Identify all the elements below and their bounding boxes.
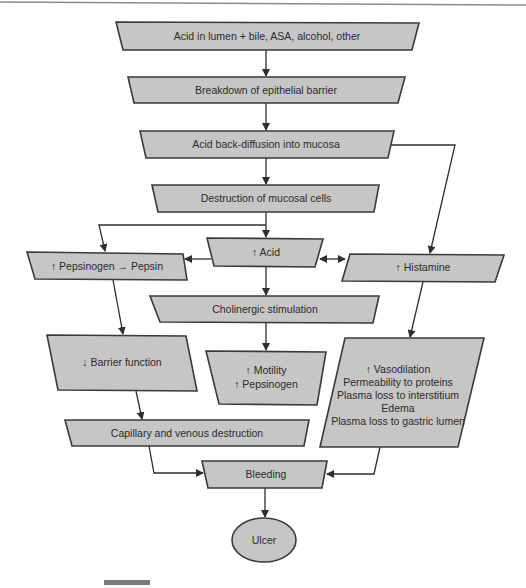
node-histamine: ↑ Histamine [342,254,504,282]
scale-bar-mark [104,580,150,585]
node-ulcer: Ulcer [232,518,296,562]
node-label-line-2: ↑ Pepsinogen [234,378,298,390]
node-barrier-function: ↓ Barrier function [47,335,197,391]
node-cholinergic-stimulation: Cholinergic stimulation [150,296,379,323]
edge-capillary-to-bleeding [149,446,203,473]
flowchart-canvas: Acid in lumen + bile, ASA, alcohol, othe… [0,0,526,588]
node-label: Ulcer [252,534,277,546]
node-label: ↑ Histamine [396,261,451,273]
node-label-line-1: ↑ Vasodilation [366,363,431,375]
node-label: Breakdown of epithelial barrier [195,84,337,96]
node-label-line-2: Permeability to proteins [343,376,453,388]
node-vasodilation: ↑ Vasodilation Permeability to proteins … [320,338,484,447]
edge-back-diffusion-to-histamine [391,145,455,253]
edge-vasodilation-to-bleeding [327,447,380,474]
edge-pepsinogen-to-barrier [113,280,123,334]
edge-histamine-to-vasodilation [410,282,423,337]
page-top-rule [0,2,526,5]
node-label: ↑ Acid [252,246,280,258]
node-acid-in-lumen: Acid in lumen + bile, ASA, alcohol, othe… [116,22,419,50]
node-destruction-mucosal-cells: Destruction of mucosal cells [152,185,379,212]
edge-barrier-to-capillary [136,391,142,419]
node-pepsinogen-pepsin: ↑ Pepsinogen → Pepsin [27,252,187,280]
node-acid-increase: ↑ Acid [207,238,323,267]
node-label: Acid back-diffusion into mucosa [192,138,340,150]
node-label: Cholinergic stimulation [212,303,318,315]
node-label: Acid in lumen + bile, ASA, alcohol, othe… [174,30,361,42]
node-label-line-3: Plasma loss to interstitium [337,389,459,401]
node-label: ↓ Barrier function [82,356,162,368]
node-capillary-venous-destruction: Capillary and venous destruction [65,420,309,446]
node-label-line-4: Edema [381,402,414,414]
node-label: Bleeding [246,468,287,480]
node-label: Destruction of mucosal cells [201,192,332,204]
node-label: Capillary and venous destruction [111,427,263,439]
node-bleeding: Bleeding [202,461,327,488]
node-label: ↑ Pepsinogen → Pepsin [51,260,163,272]
node-label-line-1: ↑ Motility [246,364,288,376]
node-motility-pepsinogen: ↑ Motility ↑ Pepsinogen [206,351,326,405]
node-acid-back-diffusion: Acid back-diffusion into mucosa [140,131,394,158]
node-breakdown-epithelial-barrier: Breakdown of epithelial barrier [128,77,405,103]
node-label-line-5: Plasma loss to gastric lumen [331,415,465,427]
